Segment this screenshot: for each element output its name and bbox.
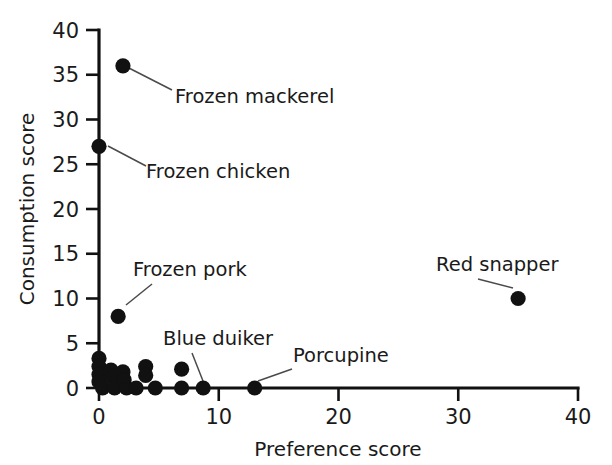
data-point xyxy=(174,380,189,395)
y-axis-title: Consumption score xyxy=(15,113,39,306)
annotation-leader-line xyxy=(478,279,513,288)
plot-canvas: 0510152025303540 010203040 Frozen macker… xyxy=(0,0,612,465)
data-point xyxy=(111,309,126,324)
y-tick-label: 0 xyxy=(66,377,79,401)
y-tick-label: 40 xyxy=(52,19,79,43)
x-axis-title: Preference score xyxy=(254,437,421,461)
y-tick-label: 25 xyxy=(52,153,79,177)
annotation-label: Blue duiker xyxy=(163,327,274,350)
y-tick-label: 20 xyxy=(52,198,79,222)
data-point xyxy=(115,58,130,73)
data-point xyxy=(511,291,526,306)
y-tick-label: 30 xyxy=(52,108,79,132)
y-tick-label: 35 xyxy=(52,63,79,87)
annotation-label: Porcupine xyxy=(293,344,389,367)
y-tick-label: 5 xyxy=(66,332,79,356)
x-tick-label: 20 xyxy=(325,405,352,429)
annotation-label: Frozen mackerel xyxy=(175,85,334,108)
annotation-leader-line xyxy=(258,369,292,381)
x-axis-tick-labels: 010203040 xyxy=(92,405,591,429)
annotation-leader-line xyxy=(123,65,172,90)
data-point xyxy=(247,380,262,395)
x-tick-label: 40 xyxy=(565,405,592,429)
x-tick-label: 10 xyxy=(205,405,232,429)
data-point xyxy=(138,368,153,383)
annotation-label: Red snapper xyxy=(436,253,559,276)
data-point xyxy=(148,380,163,395)
data-point xyxy=(196,380,211,395)
annotation-label: Frozen pork xyxy=(133,258,247,281)
annotation-leader-line xyxy=(108,146,146,166)
x-tick-label: 0 xyxy=(92,405,105,429)
annotation-labels: Frozen mackerelFrozen chickenFrozen pork… xyxy=(133,85,559,367)
annotation-leader-line xyxy=(126,284,152,305)
data-point xyxy=(129,380,144,395)
scatter-chart-figure: 0510152025303540 010203040 Frozen macker… xyxy=(0,0,612,465)
x-axis-ticks xyxy=(99,388,578,401)
annotation-leader-line xyxy=(192,353,203,381)
data-point xyxy=(91,139,106,154)
annotation-label: Frozen chicken xyxy=(146,160,290,183)
data-point xyxy=(174,362,189,377)
y-axis-ticks xyxy=(86,30,99,388)
y-tick-label: 15 xyxy=(52,242,79,266)
x-tick-label: 30 xyxy=(445,405,472,429)
y-axis-tick-labels: 0510152025303540 xyxy=(52,19,79,401)
y-tick-label: 10 xyxy=(52,287,79,311)
